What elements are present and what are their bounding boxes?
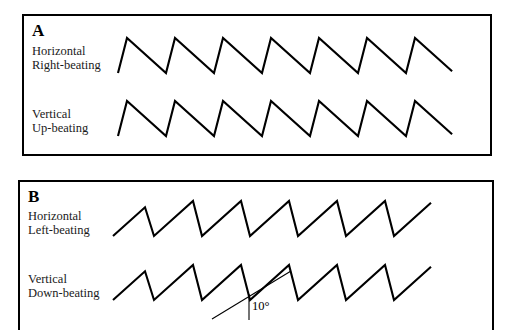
panel-b-letter: B: [28, 188, 39, 205]
panel-a-letter: A: [32, 22, 44, 39]
panel-a-trace-2-label: Vertical Up-beating: [32, 108, 88, 135]
angle-annotation-label: 10°: [252, 300, 270, 313]
panel-b-trace-1-label: Horizontal Left-beating: [28, 210, 90, 237]
panel-a-trace-1-label: Horizontal Right-beating: [32, 45, 101, 72]
panel-a: [22, 14, 492, 156]
panel-b-trace-2-label: Vertical Down-beating: [28, 273, 100, 300]
